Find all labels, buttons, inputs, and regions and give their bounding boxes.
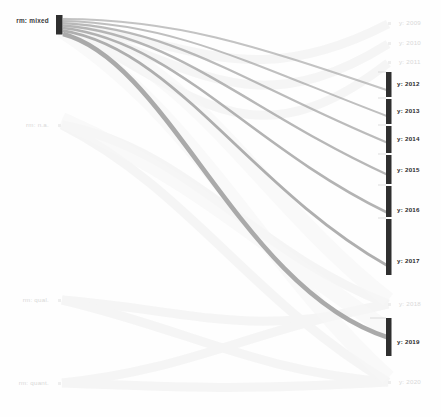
node-y2018 [388,303,391,306]
node-y2019 [386,318,392,356]
node-y2020 [388,381,391,384]
node-y2009 [388,22,391,25]
node-y2013 [386,99,392,124]
sankey-canvas [0,0,441,417]
node-rm-mixed [56,15,63,35]
node-rm-quant [58,382,61,385]
node-rm-qual [58,299,61,302]
target-node-group [386,22,392,384]
sankey-diagram: rm: mixed rm: n.a. rm: qual. rm: quant. … [0,0,441,417]
node-y2016 [386,186,392,217]
node-y2010 [388,42,391,45]
node-rm-na [58,124,61,127]
node-y2014 [386,126,392,153]
node-y2011 [388,61,391,64]
node-y2015 [386,155,392,184]
node-y2017 [386,219,392,275]
node-y2012 [386,72,392,97]
source-node-group [56,15,63,385]
